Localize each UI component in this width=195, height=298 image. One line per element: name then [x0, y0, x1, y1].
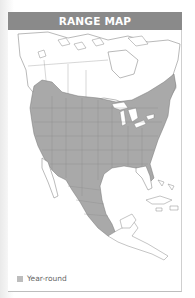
legend-label-year-round: Year-round — [27, 274, 67, 283]
map-legend: Year-round — [17, 274, 67, 283]
central-america — [108, 222, 168, 260]
range-map-panel: RANGE MAP — [8, 12, 182, 292]
range-map-title: RANGE MAP — [59, 15, 132, 27]
legend-swatch-year-round — [17, 276, 23, 282]
north-america-range-map — [8, 30, 182, 270]
range-map-header: RANGE MAP — [8, 12, 182, 30]
